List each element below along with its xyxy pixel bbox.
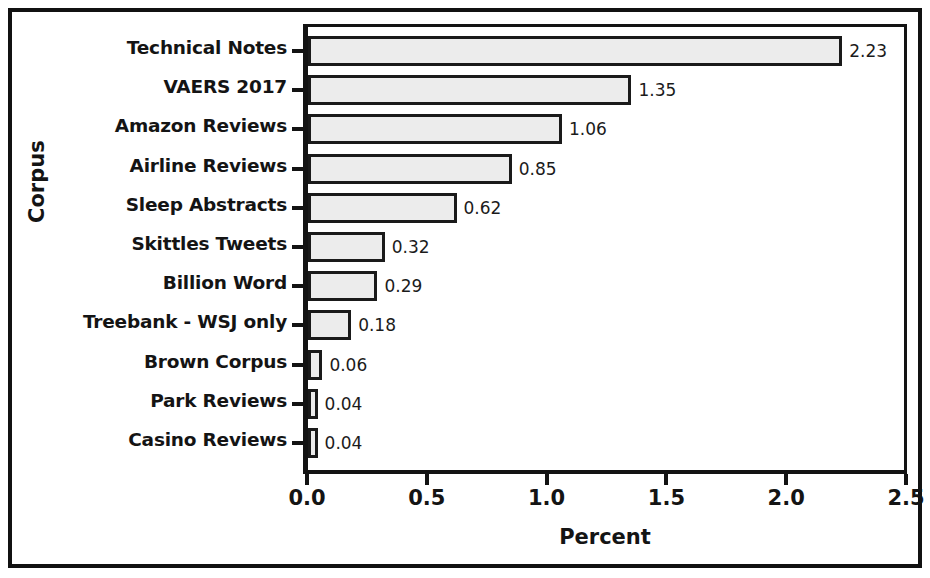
bar[interactable] — [308, 232, 385, 262]
y-axis-tick — [292, 206, 303, 210]
bar-value-label: 0.18 — [358, 315, 396, 335]
y-axis-category-label: Sleep Abstracts — [126, 194, 287, 215]
x-axis-title: Percent — [303, 525, 907, 549]
bar-value-label: 0.04 — [325, 394, 363, 414]
bar-value-label: 0.29 — [384, 276, 422, 296]
y-axis-tick — [292, 323, 303, 327]
bar-value-label: 0.32 — [392, 237, 430, 257]
y-axis-category-label: Technical Notes — [127, 37, 287, 58]
y-axis-category-labels: Technical NotesVAERS 2017Amazon ReviewsA… — [20, 24, 287, 474]
x-axis: 0.00.51.01.52.02.5 — [303, 474, 907, 520]
y-axis-tick — [292, 441, 303, 445]
bar[interactable] — [308, 389, 318, 419]
y-axis-tick — [292, 127, 303, 131]
x-axis-tick-label: 0.5 — [408, 486, 445, 510]
y-axis-category-label: Amazon Reviews — [115, 115, 287, 136]
y-axis-category-label: Airline Reviews — [130, 155, 287, 176]
y-axis-category-label: Park Reviews — [150, 390, 287, 411]
y-axis-tick — [292, 49, 303, 53]
y-axis-tick — [292, 245, 303, 249]
y-axis-category-label: Treebank - WSJ only — [83, 311, 287, 332]
y-axis-tick — [292, 402, 303, 406]
x-axis-tick-label: 2.5 — [887, 486, 924, 510]
y-axis-category-label: Skittles Tweets — [131, 233, 287, 254]
bar[interactable] — [308, 154, 512, 184]
bar[interactable] — [308, 114, 562, 144]
x-axis-tick — [545, 474, 549, 485]
bar[interactable] — [308, 75, 631, 105]
x-axis-tick-label: 2.0 — [768, 486, 805, 510]
bar-value-label: 0.06 — [329, 355, 367, 375]
x-axis-tick — [904, 474, 908, 485]
figure-canvas: Corpus Technical NotesVAERS 2017Amazon R… — [0, 0, 930, 578]
y-axis-tick — [292, 88, 303, 92]
x-axis-tick-label: 0.0 — [288, 486, 325, 510]
bar-value-label: 1.35 — [638, 80, 676, 100]
x-axis-tick-label: 1.5 — [648, 486, 685, 510]
bar-value-label: 1.06 — [569, 119, 607, 139]
x-axis-tick — [425, 474, 429, 485]
x-axis-tick — [784, 474, 788, 485]
bar[interactable] — [308, 36, 842, 66]
y-axis-tick — [292, 284, 303, 288]
y-axis-tick — [292, 363, 303, 367]
bar[interactable] — [308, 350, 322, 380]
bar[interactable] — [308, 193, 457, 223]
y-axis-tick — [292, 167, 303, 171]
bar-value-label: 2.23 — [849, 41, 887, 61]
y-axis-category-label: Casino Reviews — [128, 429, 287, 450]
bar-value-label: 0.85 — [519, 159, 557, 179]
x-axis-tick — [664, 474, 668, 485]
y-axis-category-label: VAERS 2017 — [163, 76, 287, 97]
bar-value-label: 0.04 — [325, 433, 363, 453]
y-axis-category-label: Billion Word — [163, 272, 287, 293]
x-axis-tick — [305, 474, 309, 485]
bar-value-label: 0.62 — [464, 198, 502, 218]
plot-area: 2.231.351.060.850.620.320.290.180.060.04… — [303, 24, 907, 474]
bars-layer: 2.231.351.060.850.620.320.290.180.060.04… — [308, 27, 904, 470]
bar[interactable] — [308, 428, 318, 458]
y-axis-category-label: Brown Corpus — [144, 351, 287, 372]
bar[interactable] — [308, 271, 377, 301]
x-axis-tick-label: 1.0 — [528, 486, 565, 510]
bar[interactable] — [308, 310, 351, 340]
